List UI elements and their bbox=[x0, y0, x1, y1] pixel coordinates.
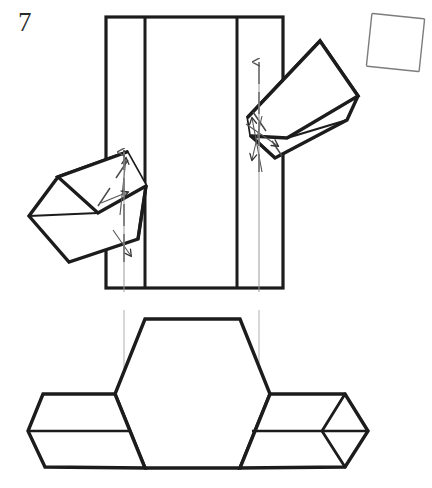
left-prism-group bbox=[29, 152, 146, 262]
figure-number-label: 7 bbox=[18, 9, 32, 36]
upper-right-prism-group bbox=[248, 41, 358, 158]
vertical-band-outline bbox=[106, 17, 283, 288]
loose-rotated-square bbox=[366, 13, 424, 71]
base-hexagon-body bbox=[115, 319, 270, 468]
loose-rotated-square-group bbox=[366, 13, 424, 71]
vertical-band-group bbox=[106, 17, 283, 288]
base-assembly-group bbox=[28, 319, 368, 468]
figure-container: 7 bbox=[0, 0, 432, 488]
folding-diagram-svg bbox=[0, 0, 432, 488]
